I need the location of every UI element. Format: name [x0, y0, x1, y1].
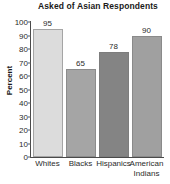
chart-title: Asked of Asian Respondents [28, 1, 168, 11]
bar-value-label: 90 [142, 26, 151, 35]
bar-chart: Asked of Asian Respondents Percent 01020… [0, 0, 170, 184]
y-axis-tick-mark [28, 157, 31, 158]
bar: 90 [132, 36, 162, 158]
y-axis-tick-mark [28, 103, 31, 104]
x-axis-tick-label: Hispanics [95, 159, 132, 169]
x-axis-line [30, 157, 164, 158]
y-axis-label: Percent [5, 55, 14, 107]
x-axis-tick-label: Whites [29, 159, 66, 169]
y-axis-tick-label: 30 [19, 112, 28, 121]
bar: 78 [99, 52, 129, 157]
bar-value-label: 65 [76, 59, 85, 68]
y-axis-tick-mark [28, 130, 31, 131]
y-axis-tick-label: 20 [19, 126, 28, 135]
y-axis-tick-mark [28, 76, 31, 77]
y-axis-tick-label: 90 [19, 31, 28, 40]
y-axis-tick-mark [28, 35, 31, 36]
y-axis-tick-label: 100 [15, 18, 28, 27]
bar-value-label: 78 [109, 42, 118, 51]
bar: 65 [66, 69, 96, 157]
bar-value-label: 95 [43, 19, 52, 28]
y-axis-tick-label: 50 [19, 85, 28, 94]
y-axis-tick-mark [28, 89, 31, 90]
y-axis-tick-mark [28, 22, 31, 23]
x-axis-tick-label: American Indians [128, 159, 165, 178]
y-axis-tick-label: 40 [19, 99, 28, 108]
y-axis-tick-mark [28, 143, 31, 144]
plot-area: 0102030405060708090100 95657890 [31, 22, 163, 157]
y-axis-tick-mark [28, 116, 31, 117]
y-axis-tick-mark [28, 62, 31, 63]
y-axis-tick-mark [28, 49, 31, 50]
bar: 95 [33, 29, 63, 157]
y-axis-tick-label: 70 [19, 58, 28, 67]
y-axis-tick-label: 80 [19, 45, 28, 54]
y-axis-tick-label: 60 [19, 72, 28, 81]
x-axis-tick-label: Blacks [62, 159, 99, 169]
y-axis-tick-label: 10 [19, 139, 28, 148]
